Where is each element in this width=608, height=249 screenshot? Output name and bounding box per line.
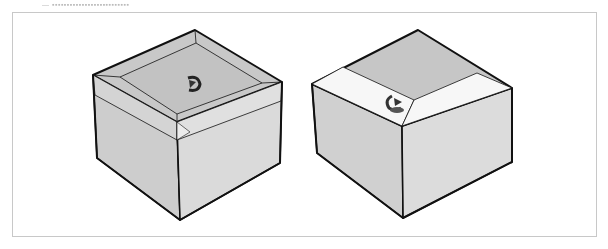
right-box [312, 30, 512, 218]
figure-illustration [0, 0, 608, 249]
left-box [93, 30, 282, 220]
